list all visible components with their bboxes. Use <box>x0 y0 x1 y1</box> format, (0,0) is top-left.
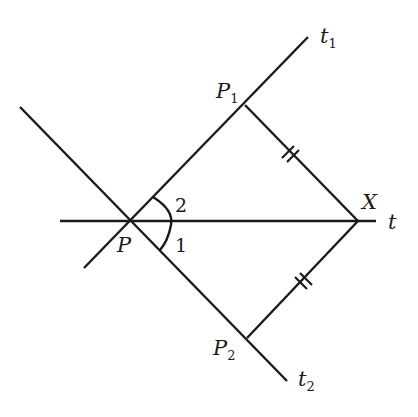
line-t2 <box>20 107 287 381</box>
label-x: X <box>360 190 378 214</box>
geometry-diagram: t1 P1 X t P 2 1 P2 t2 <box>0 0 418 417</box>
label-t2: t2 <box>298 367 315 394</box>
segment-p1-x <box>245 105 358 221</box>
label-p: P <box>116 233 132 257</box>
angle-arc <box>153 197 171 250</box>
label-p2: P2 <box>212 336 235 363</box>
label-t1: t1 <box>320 24 337 51</box>
congruence-tick-p1x <box>282 146 299 162</box>
label-angle-1: 1 <box>175 234 187 256</box>
congruence-tick-xp2 <box>295 273 312 289</box>
segment-x-p2 <box>247 221 358 338</box>
label-t: t <box>388 210 397 234</box>
label-p1: P1 <box>215 79 238 106</box>
label-angle-2: 2 <box>175 194 187 216</box>
